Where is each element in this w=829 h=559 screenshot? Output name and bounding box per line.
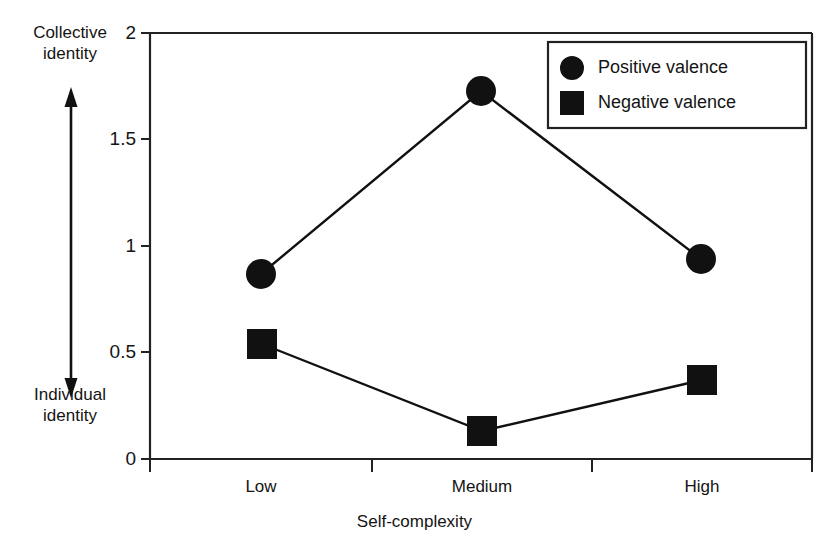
- x-axis-title: Self-complexity: [0, 512, 829, 532]
- data-point-positive-medium: [466, 76, 496, 106]
- legend-label-negative-valence: Negative valence: [598, 92, 736, 113]
- legend-marker-circle: [560, 56, 584, 80]
- plot-area: [0, 0, 829, 559]
- x-category-label-low: Low: [201, 477, 321, 497]
- data-point-positive-high: [686, 244, 716, 274]
- data-point-positive-low: [246, 259, 276, 289]
- legend-marker-square: [560, 91, 584, 115]
- legend-box: [548, 42, 806, 128]
- y-tick-label-0-5: 0.5: [78, 341, 136, 363]
- y-tick-label-0: 0: [88, 448, 136, 470]
- x-category-label-medium: Medium: [422, 477, 542, 497]
- y-axis-ticks: [141, 33, 150, 459]
- y-tick-label-1: 1: [88, 235, 136, 257]
- series-negative-valence: [247, 329, 717, 446]
- x-axis-ticks: [150, 459, 812, 472]
- legend-label-positive-valence: Positive valence: [598, 57, 728, 78]
- chart-figure: Collective identity Individual identity: [0, 0, 829, 559]
- data-point-negative-low: [247, 329, 277, 359]
- y-tick-label-2: 2: [88, 22, 136, 44]
- data-point-negative-high: [687, 365, 717, 395]
- x-category-label-high: High: [642, 477, 762, 497]
- y-tick-label-1-5: 1.5: [78, 128, 136, 150]
- data-point-negative-medium: [467, 416, 497, 446]
